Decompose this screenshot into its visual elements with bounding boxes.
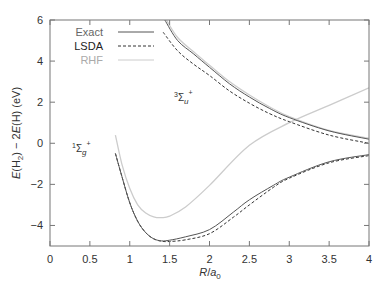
x-axis-title: R/a0 — [199, 266, 221, 281]
legend-label-rhf: RHF — [80, 54, 103, 66]
x-tick-label: 1.5 — [162, 253, 177, 265]
x-tick-label: 1 — [127, 253, 133, 265]
y-tick-label: 6 — [37, 14, 43, 26]
x-tick-label: 3 — [286, 253, 292, 265]
series-rhf-line — [166, 20, 369, 138]
series-lsda-line — [115, 154, 369, 242]
chart: 00.511.522.533.54−4−20246 ExactLSDARHF E… — [0, 0, 389, 291]
y-tick-label: 2 — [37, 96, 43, 108]
plot-lines — [115, 20, 369, 242]
legend-label-lsda: LSDA — [74, 40, 103, 52]
series-rhf-line — [115, 88, 369, 218]
y-tick-label: 0 — [37, 137, 43, 149]
y-axis-title: E(H2) − 2E(H) (eV) — [10, 87, 25, 179]
y-tick-label: −2 — [30, 178, 43, 190]
x-tick-label: 2.5 — [242, 253, 257, 265]
y-tick-label: −4 — [30, 219, 43, 231]
x-tick-label: 2 — [206, 253, 212, 265]
x-tick-label: 0 — [47, 253, 53, 265]
series-exact-line — [115, 154, 369, 241]
legend: ExactLSDARHF — [74, 26, 154, 66]
series-exact-line — [165, 20, 369, 139]
series-lsda-line — [163, 32, 369, 143]
x-tick-label: 4 — [366, 253, 372, 265]
triplet-label: 3Σu+ — [174, 89, 193, 106]
legend-label-exact: Exact — [75, 26, 103, 38]
singlet-label: 1Σg+ — [72, 140, 91, 157]
x-tick-label: 0.5 — [82, 253, 97, 265]
y-tick-label: 4 — [37, 55, 43, 67]
x-tick-label: 3.5 — [321, 253, 336, 265]
